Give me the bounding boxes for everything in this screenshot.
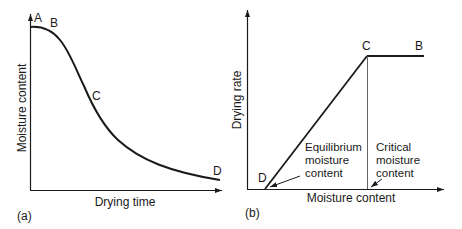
panel-a-label-D: D (213, 164, 222, 178)
panel-b: C B D Equilibrium moisture content Criti… (230, 10, 444, 220)
panel-b-label-B: B (415, 39, 423, 53)
equilibrium-line-1: Equilibrium (305, 141, 362, 153)
drying-curves-figure: A B C D Drying time Moisture content (a)… (0, 0, 462, 229)
panel-a-xlabel: Drying time (95, 195, 156, 209)
panel-b-label-C: C (362, 39, 371, 53)
equilibrium-line-2: moisture (305, 154, 349, 166)
critical-line-3: content (376, 167, 415, 179)
panel-b-xlabel: Moisture content (307, 191, 396, 205)
equilibrium-line-3: content (305, 167, 344, 179)
panel-a-drying-curve (30, 27, 220, 180)
panel-a-caption: (a) (17, 209, 32, 223)
critical-arrow (371, 179, 382, 187)
panel-a-label-A: A (34, 11, 42, 25)
critical-line-1: Critical (376, 141, 411, 153)
critical-annotation: Critical moisture content (371, 141, 420, 187)
panel-a-ylabel: Moisture content (15, 63, 29, 152)
panel-a-label-C: C (92, 89, 101, 103)
panel-b-caption: (b) (245, 206, 260, 220)
panel-a: A B C D Drying time Moisture content (a) (15, 11, 222, 223)
critical-line-2: moisture (376, 154, 420, 166)
panel-b-label-D: D (258, 171, 267, 185)
panel-b-ylabel: Drying rate (230, 70, 244, 129)
panel-a-label-B: B (50, 16, 58, 30)
